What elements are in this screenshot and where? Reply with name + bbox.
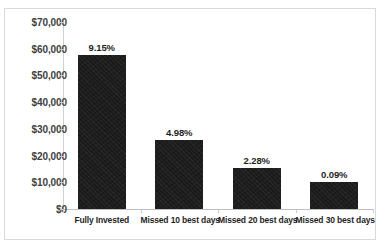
y-axis-tick-mark [60, 156, 64, 157]
y-axis-tick-label: $70,000 [11, 17, 67, 28]
bar [155, 140, 203, 209]
bar [233, 168, 281, 209]
x-axis-category-label: Missed 20 best days [218, 215, 296, 225]
y-axis-tick-label: $0 [11, 204, 67, 215]
bar [78, 55, 126, 209]
y-axis-tick-mark [60, 75, 64, 76]
x-axis-tick-mark [141, 209, 142, 213]
bar-value-label: 9.15% [62, 42, 142, 53]
x-axis-category-label: Fully Invested [63, 215, 141, 225]
chart-frame: $0$10,000$20,000$30,000$40,000$50,000$60… [4, 8, 376, 240]
bar-value-label: 0.09% [294, 169, 374, 180]
x-axis-tick-mark [373, 209, 374, 213]
x-axis-tick-mark [63, 209, 64, 213]
y-axis-tick-label: $30,000 [11, 123, 67, 134]
bar [310, 182, 358, 209]
bar-value-label: 2.28% [217, 155, 297, 166]
y-axis-tick-mark [60, 22, 64, 23]
y-axis-tick-label: $60,000 [11, 43, 67, 54]
bar-chart-plot-area: $0$10,000$20,000$30,000$40,000$50,000$60… [5, 9, 377, 241]
y-axis-tick-mark [60, 182, 64, 183]
y-axis-tick-label: $20,000 [11, 150, 67, 161]
bar-value-label: 4.98% [139, 127, 219, 138]
y-axis-tick-label: $50,000 [11, 70, 67, 81]
x-axis-category-label: Missed 10 best days [141, 215, 219, 225]
x-axis-tick-mark [296, 209, 297, 213]
y-axis-tick-mark [60, 102, 64, 103]
x-axis-category-label: Missed 30 best days [296, 215, 374, 225]
y-axis-tick-label: $40,000 [11, 97, 67, 108]
x-axis-tick-mark [218, 209, 219, 213]
y-axis-tick-mark [60, 129, 64, 130]
y-axis-tick-label: $10,000 [11, 177, 67, 188]
